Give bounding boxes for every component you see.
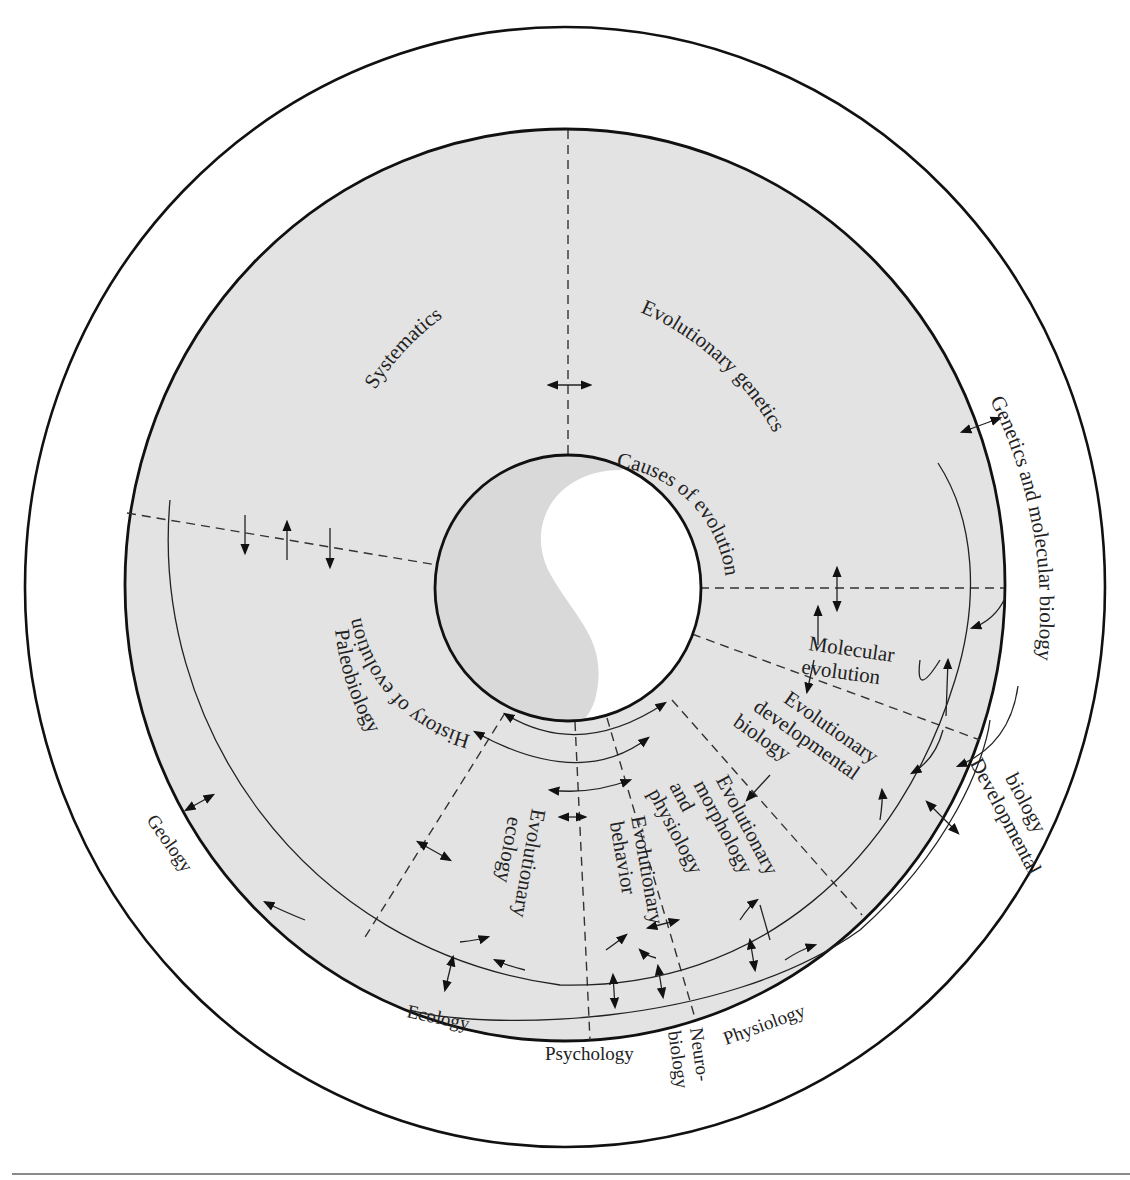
- label-developmental-biology: Developmental biology: [965, 742, 1068, 878]
- evolutionary-biology-diagram: History of evolution Causes of evolution…: [0, 0, 1130, 1180]
- label-psychology: Psychology: [545, 1043, 634, 1064]
- label-neurobiology: Neuro- biology: [664, 1026, 715, 1090]
- bottom-rule: [12, 1173, 1130, 1175]
